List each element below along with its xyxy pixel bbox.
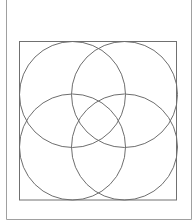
circles-group xyxy=(20,42,178,201)
four-circles-diagram xyxy=(0,0,195,223)
inner-square xyxy=(20,42,177,201)
